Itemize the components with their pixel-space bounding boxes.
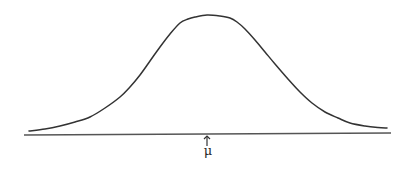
x-axis-baseline xyxy=(24,133,391,135)
mean-label: μ xyxy=(201,144,215,158)
bell-curve xyxy=(29,15,387,131)
